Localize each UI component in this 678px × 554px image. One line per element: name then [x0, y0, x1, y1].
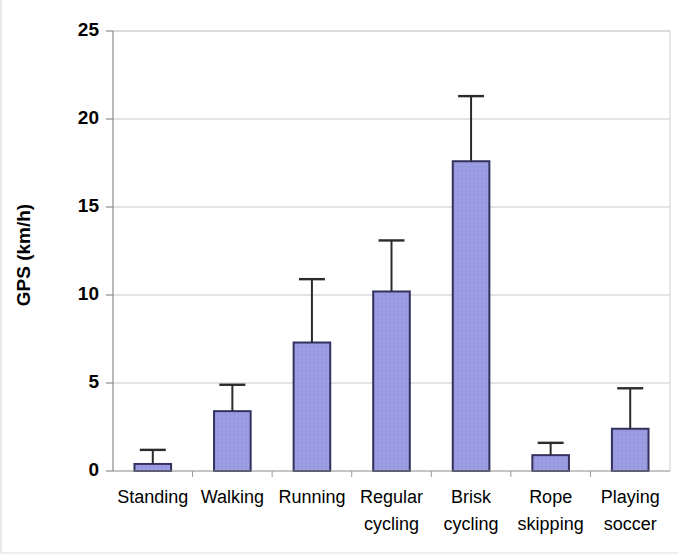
gps-speed-bar-chart: 0510152025 StandingWalkingRunningRegular… [0, 0, 678, 554]
x-category-label: Running [278, 487, 345, 507]
bars-group [134, 161, 648, 471]
x-axis-category-labels: StandingWalkingRunningRegularcyclingBris… [117, 487, 659, 534]
y-axis-ticks: 0510152025 [78, 19, 113, 480]
bar [453, 161, 490, 471]
y-axis-title: GPS (km/h) [13, 204, 34, 306]
y-tick-label: 10 [78, 283, 99, 304]
bar [612, 429, 649, 471]
bar [134, 464, 171, 471]
x-category-label: cycling [364, 514, 419, 534]
bar [294, 343, 331, 471]
bar [214, 411, 251, 471]
x-category-label: skipping [518, 514, 584, 534]
x-category-label: Brisk [451, 487, 492, 507]
x-category-label: Playing [601, 487, 660, 507]
chart-canvas: 0510152025 StandingWalkingRunningRegular… [0, 0, 678, 554]
bar [373, 291, 410, 471]
y-tick-label: 20 [78, 107, 99, 128]
y-tick-label: 0 [88, 459, 99, 480]
y-tick-label: 25 [78, 19, 100, 40]
y-tick-label: 15 [78, 195, 100, 216]
x-category-label: Walking [201, 487, 264, 507]
x-category-label: Standing [117, 487, 188, 507]
x-category-label: Rope [529, 487, 572, 507]
x-category-label: cycling [444, 514, 499, 534]
bar [532, 455, 569, 471]
x-category-label: soccer [604, 514, 657, 534]
y-tick-label: 5 [88, 371, 99, 392]
x-category-label: Regular [360, 487, 423, 507]
